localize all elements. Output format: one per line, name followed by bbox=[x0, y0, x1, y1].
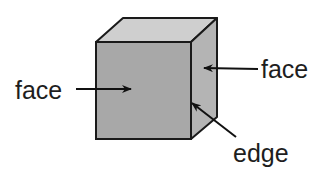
cube-front-face bbox=[96, 42, 191, 139]
edge-label: edge bbox=[233, 139, 289, 167]
cube-diagram: face face edge bbox=[0, 0, 325, 178]
side-face-label: face bbox=[261, 55, 308, 83]
side-face-arrow bbox=[204, 68, 258, 69]
front-face-label: face bbox=[15, 76, 62, 104]
